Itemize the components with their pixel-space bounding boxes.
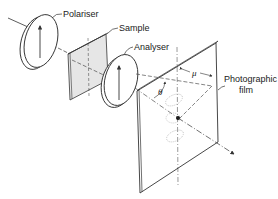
scattering-diagram: Polariser Sample Analyser μ — [0, 0, 278, 199]
polariser-label: Polariser — [63, 9, 99, 19]
film-label-line1: Photographic — [224, 74, 278, 84]
polariser-disc — [15, 11, 64, 73]
photographic-film — [137, 41, 218, 193]
mu-symbol: μ — [191, 68, 197, 78]
film-label-line2: film — [239, 85, 253, 95]
sample-label: Sample — [119, 23, 150, 33]
analyser-label: Analyser — [134, 42, 169, 52]
theta-symbol: θ — [158, 87, 163, 97]
